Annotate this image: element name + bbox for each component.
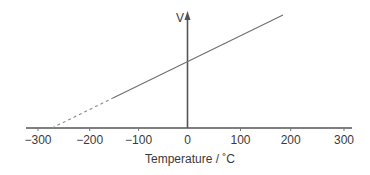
x-tick-label: −100 (125, 133, 152, 147)
data-line-solid (113, 15, 283, 98)
x-tick-label: 200 (281, 133, 301, 147)
x-tick-label: −200 (76, 133, 103, 147)
x-tick-label: −300 (24, 133, 51, 147)
data-line-extrapolation-dashed (52, 98, 113, 128)
volume-temperature-chart: −300 −200 −100 0 100 200 300 Temperature… (0, 0, 370, 175)
x-tick-label: 100 (230, 133, 250, 147)
y-axis-arrow-icon (185, 11, 191, 20)
x-tick-label: 0 (184, 133, 191, 147)
y-axis-title: V (176, 11, 184, 25)
x-tick-label: 300 (334, 133, 354, 147)
x-axis-title: Temperature / ˚C (145, 152, 235, 166)
